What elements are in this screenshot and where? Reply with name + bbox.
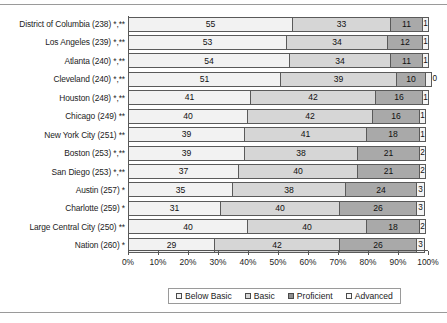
legend-label: Advanced: [355, 291, 393, 301]
segment-value: 1: [423, 94, 428, 102]
bar-segment-advanced: 3: [416, 201, 425, 216]
row-label: San Diego (253) *,**: [0, 164, 128, 180]
row-label: Cleveland (240) *,**: [0, 71, 128, 87]
stacked-bar: 5434111: [128, 53, 428, 68]
segment-value: 37: [179, 167, 189, 176]
legend-item[interactable]: Basic: [245, 291, 275, 301]
x-axis-tick: [188, 251, 189, 255]
bar-segment-advanced: 1: [422, 17, 429, 32]
chart-row: New York City (251) **3941181: [0, 127, 447, 143]
bar-segment-below-basic: 37: [128, 164, 239, 179]
stacked-bar: 3941181: [128, 127, 428, 142]
bar-segment-below-basic: 41: [128, 90, 251, 105]
segment-value: 55: [206, 20, 216, 29]
x-axis-tick: [368, 251, 369, 255]
bar-segment-below-basic: 40: [128, 109, 248, 124]
bar-segment-advanced: 2: [419, 146, 426, 161]
x-axis-tick: [278, 251, 279, 255]
stacked-bar: 3140263: [128, 201, 428, 216]
chart-row: Cleveland (240) *,**5139100: [0, 71, 447, 87]
bar-segment-basic: 34: [289, 53, 391, 68]
segment-value: 40: [275, 204, 285, 213]
chart-row: Boston (253) *,**3938212: [0, 145, 447, 161]
row-label: Los Angeles (239) *,**: [0, 34, 128, 50]
bar-segment-basic: 40: [247, 219, 367, 234]
segment-value: 1: [423, 57, 428, 65]
row-label: District of Columbia (238) *,**: [0, 16, 128, 32]
legend-label: Proficient: [297, 291, 333, 301]
segment-value: 10: [406, 75, 416, 84]
bar-segment-below-basic: 31: [128, 201, 221, 216]
chart-row: Chicago (249) **4042161: [0, 108, 447, 124]
legend-item[interactable]: Advanced: [346, 291, 393, 301]
segment-value: 41: [185, 93, 195, 102]
bar-segment-proficient: 11: [390, 53, 423, 68]
segment-value: 16: [391, 112, 401, 121]
segment-value: 34: [332, 38, 342, 47]
bar-segment-proficient: 18: [366, 219, 420, 234]
row-label: Boston (253) *,**: [0, 145, 128, 161]
bar-segment-below-basic: 51: [128, 72, 281, 87]
bar-segment-proficient: 12: [387, 35, 423, 50]
bar-segment-proficient: 26: [339, 201, 417, 216]
x-axis-tick: [158, 251, 159, 255]
bar-segment-advanced: 1: [419, 109, 426, 124]
bar-segment-advanced: 3: [416, 182, 425, 197]
bar-segment-proficient: 21: [357, 146, 420, 161]
segment-value: 26: [373, 204, 383, 213]
legend-item[interactable]: Proficient: [288, 291, 333, 301]
bar-segment-basic: 42: [247, 109, 373, 124]
bar-segment-basic: 33: [292, 17, 391, 32]
stacked-bar: 4040182: [128, 219, 428, 234]
segment-value: 21: [384, 149, 394, 158]
stacked-bar: 4142161: [128, 90, 428, 105]
x-axis-tick: [128, 251, 129, 255]
segment-value: 39: [182, 149, 192, 158]
row-label: Nation (260) *: [0, 237, 128, 253]
bar-segment-advanced: 1: [422, 90, 429, 105]
bar-segment-below-basic: 35: [128, 182, 233, 197]
bar-segment-proficient: 24: [345, 182, 417, 197]
segment-value: 31: [170, 204, 180, 213]
segment-value: 2: [420, 167, 425, 175]
legend-swatch-icon: [288, 293, 294, 299]
x-axis-tick: [218, 251, 219, 255]
bar-segment-basic: 39: [280, 72, 397, 87]
stacked-bar-chart: District of Columbia (238) *,**5533111Lo…: [0, 16, 447, 264]
chart-rows: District of Columbia (238) *,**5533111Lo…: [0, 16, 447, 256]
bar-segment-proficient: 16: [375, 90, 423, 105]
segment-value: 51: [200, 75, 210, 84]
x-axis-tick: [398, 251, 399, 255]
segment-value: 3: [418, 241, 423, 249]
bar-segment-basic: 40: [220, 201, 340, 216]
chart-legend: Below BasicBasicProficientAdvanced: [168, 288, 401, 304]
segment-value: 40: [183, 112, 193, 121]
bar-segment-basic: 42: [250, 90, 376, 105]
row-label: Austin (257) *: [0, 182, 128, 198]
stacked-bar: 3538243: [128, 182, 428, 197]
legend-item[interactable]: Below Basic: [176, 291, 232, 301]
segment-value: 38: [284, 186, 294, 195]
bar-segment-advanced: 0: [425, 72, 432, 87]
legend-swatch-icon: [346, 293, 352, 299]
bar-segment-below-basic: 53: [128, 35, 287, 50]
segment-value: 40: [293, 167, 303, 176]
legend-label: Below Basic: [185, 291, 232, 301]
legend-swatch-icon: [176, 293, 182, 299]
segment-value: 53: [203, 38, 213, 47]
bar-segment-below-basic: 39: [128, 146, 245, 161]
segment-value: 11: [402, 57, 411, 66]
x-axis-tick: [428, 251, 429, 255]
segment-value: 34: [335, 57, 345, 66]
segment-value: 0: [433, 75, 438, 83]
chart-page: District of Columbia (238) *,**5533111Lo…: [0, 0, 447, 323]
bar-segment-below-basic: 39: [128, 127, 245, 142]
segment-value: 29: [167, 241, 177, 250]
segment-value: 11: [402, 20, 411, 29]
segment-value: 3: [418, 186, 423, 194]
bar-segment-proficient: 18: [366, 127, 420, 142]
bar-segment-basic: 34: [286, 35, 388, 50]
bar-segment-advanced: 2: [419, 219, 426, 234]
legend-label: Basic: [254, 291, 275, 301]
segment-value: 54: [204, 57, 214, 66]
